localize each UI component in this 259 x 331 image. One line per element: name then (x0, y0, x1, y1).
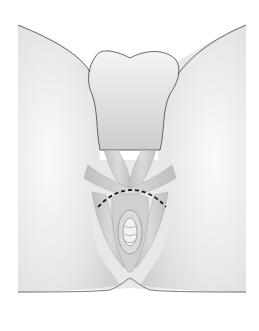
inner-core (123, 218, 137, 246)
anatomical-illustration (0, 0, 259, 331)
illustration-canvas (0, 0, 259, 331)
